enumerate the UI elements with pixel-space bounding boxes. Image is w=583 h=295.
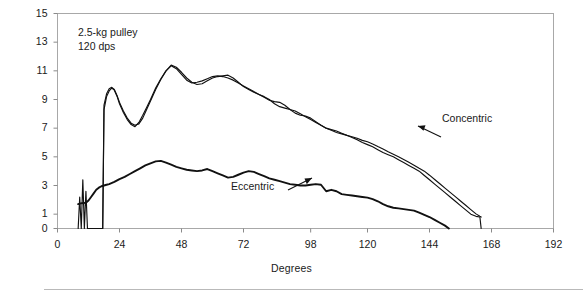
x-tick-label: 168 [472,238,512,250]
x-tick-label: 144 [410,238,450,250]
x-axis-title: Degrees [0,262,583,274]
chart-annotation-speed: 120 dps [78,40,115,54]
y-tick-label: 3 [22,179,48,191]
x-tick-label: 98 [291,238,331,250]
y-tick-label: 15 [22,7,48,19]
y-tick-label: 11 [22,64,48,76]
x-tick-label: 24 [100,238,140,250]
chart-annotation-pulley: 2.5-kg pulley [78,26,138,40]
y-tick-label: 1 [22,207,48,219]
y-tick-label: 13 [22,35,48,47]
x-tick-label: 72 [224,238,264,250]
y-tick-label: 5 [22,150,48,162]
x-tick-label: 192 [534,238,574,250]
series-label-concentric: Concentric [442,112,492,124]
x-tick-label: 48 [162,238,202,250]
series-label-eccentric: Eccentric [231,180,274,192]
figure-footer-rule [44,289,583,290]
y-tick-label: 7 [22,121,48,133]
x-tick-label: 0 [38,238,78,250]
figure-container: Ft - lb Degrees 2.5-kg pulley 120 dps Co… [0,0,583,295]
y-tick-label: 9 [22,93,48,105]
x-tick-label: 120 [348,238,388,250]
y-tick-label: 0 [22,222,48,234]
